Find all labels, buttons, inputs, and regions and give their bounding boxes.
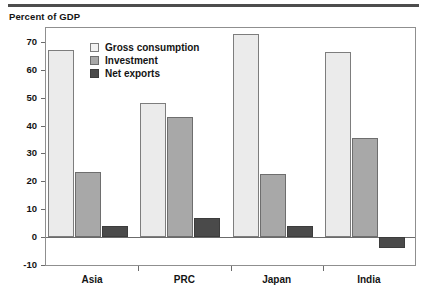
y-axis-label: 0 bbox=[3, 231, 37, 242]
y-axis-tick bbox=[41, 237, 45, 238]
chart-axis-title: Percent of GDP bbox=[9, 11, 80, 22]
bar-india-series-0 bbox=[325, 52, 351, 237]
y-axis-tick bbox=[41, 42, 45, 43]
x-axis-tick bbox=[138, 266, 139, 271]
legend-label: Net exports bbox=[105, 68, 160, 79]
chart-figure: Percent of GDP -10010203040506070AsiaPRC… bbox=[0, 0, 427, 296]
bar-prc-series-2 bbox=[194, 218, 220, 238]
legend-label: Investment bbox=[105, 55, 158, 66]
y-axis-tick bbox=[41, 153, 45, 154]
y-axis-tick bbox=[41, 98, 45, 99]
y-axis-tick bbox=[41, 209, 45, 210]
y-axis-label: 40 bbox=[3, 120, 37, 131]
bar-asia-series-0 bbox=[48, 50, 74, 237]
bar-prc-series-1 bbox=[167, 117, 193, 237]
y-axis-label: 70 bbox=[3, 36, 37, 47]
x-axis-tick bbox=[231, 266, 232, 271]
legend-swatch-gross-consumption bbox=[90, 43, 99, 52]
zero-baseline bbox=[46, 237, 415, 238]
chart-legend: Gross consumption Investment Net exports bbox=[90, 41, 230, 80]
legend-item: Investment bbox=[90, 54, 230, 67]
legend-item: Net exports bbox=[90, 67, 230, 80]
x-axis-tick bbox=[323, 266, 324, 271]
x-axis-label-prc: PRC bbox=[138, 274, 230, 285]
y-axis-label: 60 bbox=[3, 64, 37, 75]
bar-asia-series-2 bbox=[102, 226, 128, 237]
x-axis-label-asia: Asia bbox=[46, 274, 138, 285]
y-axis-label: 50 bbox=[3, 92, 37, 103]
bar-asia-series-1 bbox=[75, 172, 101, 238]
legend-swatch-net-exports bbox=[90, 69, 99, 78]
top-rule-divider bbox=[8, 4, 419, 7]
y-axis-label: 20 bbox=[3, 175, 37, 186]
legend-item: Gross consumption bbox=[90, 41, 230, 54]
bar-india-series-2 bbox=[379, 237, 405, 248]
bar-japan-series-2 bbox=[287, 226, 313, 237]
bar-japan-series-0 bbox=[233, 34, 259, 238]
bar-japan-series-1 bbox=[260, 174, 286, 237]
bar-india-series-1 bbox=[352, 138, 378, 237]
y-axis-tick bbox=[41, 70, 45, 71]
legend-swatch-investment bbox=[90, 56, 99, 65]
x-axis-label-india: India bbox=[323, 274, 415, 285]
y-axis-label: 30 bbox=[3, 147, 37, 158]
y-axis-tick bbox=[41, 265, 45, 266]
legend-label: Gross consumption bbox=[105, 42, 199, 53]
y-axis-tick bbox=[41, 126, 45, 127]
y-axis-label: 10 bbox=[3, 203, 37, 214]
y-axis-tick bbox=[41, 181, 45, 182]
bar-prc-series-0 bbox=[140, 103, 166, 237]
x-axis-label-japan: Japan bbox=[231, 274, 323, 285]
y-axis-label: -10 bbox=[3, 259, 37, 270]
